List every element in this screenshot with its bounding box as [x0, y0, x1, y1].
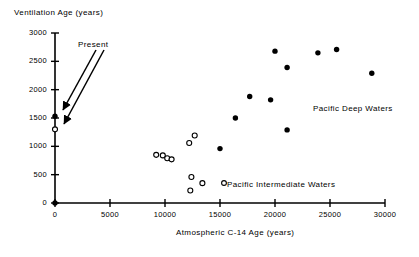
data-point-filled [268, 97, 273, 102]
axis-ticks [51, 33, 385, 207]
data-point-filled [315, 50, 320, 55]
x-tick-label: 15000 [195, 210, 245, 219]
data-point-open [169, 157, 174, 162]
data-point-filled [217, 146, 222, 151]
data-point-filled [334, 47, 339, 52]
data-point-filled [272, 48, 277, 53]
y-tick-label: 1000 [1, 141, 47, 150]
data-point-filled [233, 115, 238, 120]
x-tick-label: 20000 [250, 210, 300, 219]
data-point-filled [284, 127, 289, 132]
legend-markers [222, 181, 227, 186]
data-point-open [188, 188, 193, 193]
x-tick-label: 0 [30, 210, 80, 219]
data-point-filled [369, 71, 374, 76]
data-point-filled [247, 94, 252, 99]
data-point-open [200, 181, 205, 186]
x-tick-label: 5000 [85, 210, 135, 219]
present-arrows [63, 50, 104, 124]
y-tick-label: 0 [1, 198, 47, 207]
data-point-open [192, 133, 197, 138]
x-tick-label: 25000 [305, 210, 355, 219]
data-point-open [53, 127, 58, 132]
data-point-open [187, 140, 192, 145]
data-point-open [154, 152, 159, 157]
axis-lines [55, 33, 385, 203]
y-tick-label: 2500 [1, 56, 47, 65]
data-point-filled [52, 200, 57, 205]
y-tick-label: 3000 [1, 28, 47, 37]
data-points [52, 47, 374, 206]
data-point-filled [284, 65, 289, 70]
y-tick-label: 1500 [1, 113, 47, 122]
data-point-open [189, 174, 194, 179]
x-tick-label: 10000 [140, 210, 190, 219]
y-tick-label: 2000 [1, 85, 47, 94]
legend-open-circle-icon [222, 181, 227, 186]
data-point-filled [52, 114, 57, 119]
x-tick-label: 30000 [360, 210, 410, 219]
y-tick-label: 500 [1, 170, 47, 179]
